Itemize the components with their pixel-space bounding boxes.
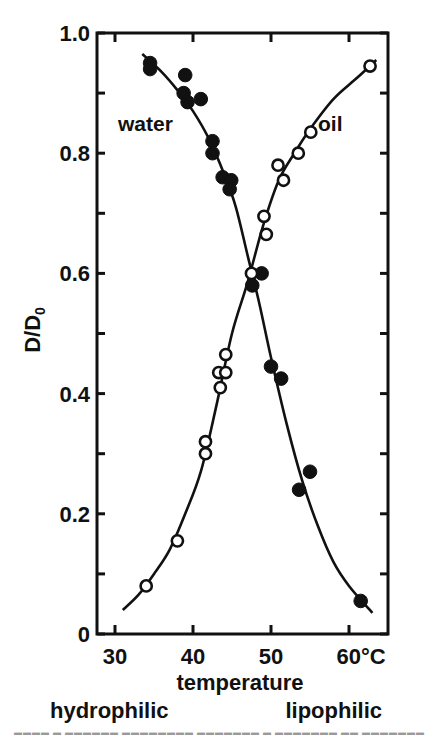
curve-water [142,54,372,613]
y-tick-label: 0 [78,622,90,647]
y-tick-label: 0.4 [59,382,90,407]
point-water [303,465,317,479]
x-tick-label: 40 [181,644,205,669]
x-tick-label: 60°C [336,644,385,669]
fit-curves [123,54,376,613]
point-oil [220,349,231,360]
series-label-water: water [117,112,173,135]
point-water [245,279,259,293]
y-tick-label: 0.2 [59,502,90,527]
figure-caption-fragment: ▬▬▬▬ ▬ ▬▬▬▬▬▬ ▬▬▬▬▬▬▬▬ ▬▬▬▬▬▬▬ ▬ ▬▬▬▬▬▬▬… [14,728,425,737]
point-water [181,95,195,109]
curve-oil [123,60,376,610]
point-oil [200,448,211,459]
point-water [274,372,288,386]
annotation-lipophilic: lipophilic [285,698,382,723]
data-points [141,56,376,607]
y-tick-label: 0.6 [59,261,90,286]
series-label-oil: oil [318,112,343,135]
y-axis-title-main: D/D [20,315,45,353]
point-oil [293,148,304,159]
point-oil [246,268,257,279]
point-oil [272,160,283,171]
point-oil [364,60,375,71]
point-water [292,483,306,497]
point-water [206,146,220,160]
y-axis-title: D/D0 [20,307,48,353]
point-water [178,68,192,82]
point-oil [258,211,269,222]
x-tick-label: 30 [103,644,127,669]
point-water [143,62,157,76]
point-water [194,92,208,106]
point-oil [261,229,272,240]
x-axis-title: temperature [176,670,303,695]
point-oil [141,580,152,591]
y-tick-label: 0.8 [59,141,90,166]
annotation-hydrophilic: hydrophilic [50,698,169,723]
point-water [264,360,278,374]
y-tick-label: 1.0 [59,21,90,46]
point-oil [220,367,231,378]
x-tick-label: 50 [259,644,283,669]
point-oil [215,382,226,393]
point-oil [200,436,211,447]
point-oil [278,175,289,186]
point-water [354,594,368,608]
point-water [223,182,237,196]
y-axis-title-subscript: 0 [32,307,48,315]
point-oil [172,535,183,546]
point-oil [305,127,316,138]
